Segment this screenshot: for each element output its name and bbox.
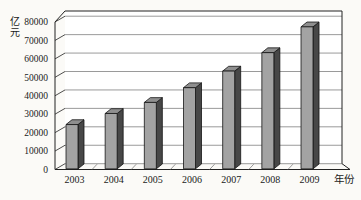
- bar-front-2003: [66, 125, 78, 169]
- y-tick-label-20000: 20000: [24, 128, 48, 138]
- bar-side-2005: [156, 98, 162, 169]
- bar-chart-3d: 0100002000030000400005000060000700008000…: [0, 0, 361, 200]
- bar-side-2003: [78, 120, 84, 169]
- bar-front-2005: [144, 102, 156, 168]
- bar-side-2004: [117, 109, 123, 169]
- bar-front-2006: [184, 88, 196, 169]
- bar-2009: [301, 22, 319, 169]
- y-tick-label-70000: 70000: [24, 36, 48, 46]
- x-tick-label-2004: 2004: [104, 174, 124, 185]
- bar-2006: [184, 83, 202, 169]
- y-tick-label-50000: 50000: [24, 73, 48, 83]
- bar-front-2009: [301, 27, 313, 169]
- y-tick-label-60000: 60000: [24, 54, 48, 64]
- bar-side-2009: [313, 22, 319, 169]
- y-tick-label-0: 0: [43, 165, 48, 175]
- y-tick-label-80000: 80000: [24, 17, 48, 27]
- x-tick-label-2009: 2009: [300, 174, 320, 185]
- bar-side-2007: [235, 66, 241, 169]
- y-tick-label-10000: 10000: [24, 146, 48, 156]
- x-axis-title: 年份: [334, 173, 355, 185]
- bar-front-2007: [223, 71, 235, 169]
- x-tick-label-2008: 2008: [260, 174, 280, 185]
- bar-front-2008: [262, 53, 274, 169]
- y-axis-unit-label: 亿元: [10, 15, 20, 38]
- bar-side-2006: [196, 83, 202, 169]
- bar-2004: [105, 109, 123, 169]
- bar-2005: [144, 98, 162, 169]
- bar-front-2004: [105, 113, 117, 168]
- y-tick-label-40000: 40000: [24, 91, 48, 101]
- bar-2008: [262, 48, 280, 169]
- bar-side-2008: [274, 48, 280, 169]
- chart-canvas: 0100002000030000400005000060000700008000…: [0, 0, 361, 200]
- x-tick-label-2005: 2005: [143, 174, 163, 185]
- x-tick-label-2006: 2006: [182, 174, 202, 185]
- x-tick-label-2007: 2007: [221, 174, 241, 185]
- bar-2007: [223, 66, 241, 169]
- x-tick-label-2003: 2003: [65, 174, 85, 185]
- y-tick-label-30000: 30000: [24, 109, 48, 119]
- bar-2003: [66, 120, 84, 169]
- chart-page: 0100002000030000400005000060000700008000…: [0, 0, 361, 200]
